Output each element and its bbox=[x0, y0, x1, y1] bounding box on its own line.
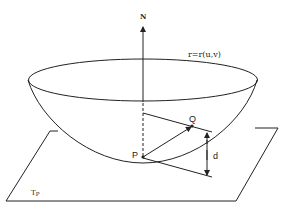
label-point-p: P bbox=[132, 150, 138, 160]
label-tangent-plane: TP bbox=[31, 189, 40, 197]
vector-pq bbox=[143, 127, 191, 157]
label-normal-n: N bbox=[140, 12, 147, 21]
upper-parallel-line bbox=[143, 113, 212, 132]
label-surface-equation: r=r(u,v) bbox=[188, 50, 221, 59]
label-tangent-plane-sub: P bbox=[36, 191, 40, 197]
label-point-q: Q bbox=[189, 114, 196, 124]
lower-parallel-line bbox=[143, 158, 212, 177]
point-p-dot bbox=[141, 155, 144, 158]
point-q-dot bbox=[190, 124, 193, 127]
tangent-plane bbox=[6, 128, 278, 201]
diagram-canvas: N r=r(u,v) P Q d TP bbox=[0, 0, 291, 214]
label-distance-d: d bbox=[213, 151, 218, 161]
